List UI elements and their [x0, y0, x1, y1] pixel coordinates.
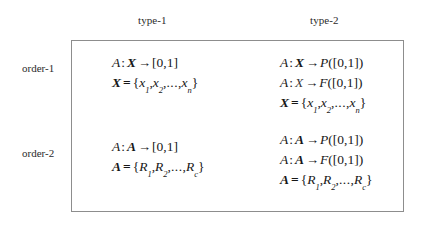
cell-type1-order2: A:A→[0,1] A={R1,R2,...,Rc} [112, 137, 204, 177]
formula-set-X: X={x1,x2,...,xn} [280, 93, 366, 113]
row-label-order-1: order-1 [22, 62, 54, 74]
column-header-type-1: type-1 [138, 14, 167, 26]
row-label-order-2: order-2 [22, 147, 54, 159]
formula-map-A-A-F-unit: A:A→F([0,1]) [280, 150, 372, 170]
cell-type2-order1: A:X→P([0,1]) A:X→F([0,1]) X={x1,x2,...,x… [280, 53, 366, 113]
cell-type1-order1: A:X→[0,1] X={x1,x2,...,xn} [112, 53, 198, 93]
formula-set-A: A={R1,R2,...,Rc} [112, 157, 204, 177]
column-header-type-2: type-2 [310, 14, 339, 26]
formula-map-A-A-P-unit: A:A→P([0,1]) [280, 130, 372, 150]
formula-map-A-A-unit: A:A→[0,1] [112, 137, 204, 157]
formula-set-X: X={x1,x2,...,xn} [112, 73, 198, 93]
formula-map-A-X-unit: A:X→[0,1] [112, 53, 198, 73]
cell-type2-order2: A:A→P([0,1]) A:A→F([0,1]) A={R1,R2,...,R… [280, 130, 372, 190]
formula-map-A-X-F-unit: A:X→F([0,1]) [280, 73, 366, 93]
formula-map-A-X-P-unit: A:X→P([0,1]) [280, 53, 366, 73]
formula-set-A: A={R1,R2,...,Rc} [280, 170, 372, 190]
matrix-box: A:X→[0,1] X={x1,x2,...,xn} A:X→P([0,1]) … [71, 40, 404, 212]
